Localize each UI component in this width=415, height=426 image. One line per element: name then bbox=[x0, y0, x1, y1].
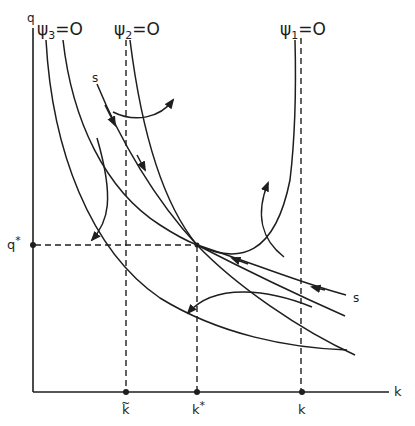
psi2-curve bbox=[130, 40, 355, 355]
k-star-label: k* bbox=[192, 399, 206, 417]
q-star-label: q* bbox=[7, 234, 21, 252]
k-star-dot bbox=[194, 389, 200, 395]
psi2-label: ψ2=O bbox=[114, 19, 160, 42]
saddle-path-upper-arrow bbox=[105, 105, 115, 125]
k-axis-label: k bbox=[394, 384, 402, 399]
saddle-path-upper bbox=[97, 84, 197, 245]
equilibrium-point bbox=[195, 243, 200, 248]
trajectory-right bbox=[261, 183, 284, 257]
saddle-path: s s bbox=[92, 71, 359, 305]
saddle-label-lower: s bbox=[353, 291, 359, 305]
k-bar-dot bbox=[299, 389, 305, 395]
trajectory-bottom bbox=[188, 292, 312, 313]
saddle-path-upper-arrow-2 bbox=[137, 155, 145, 170]
locus-curve-4 bbox=[63, 40, 345, 316]
psi3-label: ψ3=O bbox=[37, 19, 83, 42]
tick-markers bbox=[30, 242, 305, 395]
trajectories bbox=[92, 100, 312, 313]
k-tilde-dot bbox=[123, 389, 129, 395]
q-axis-label: q bbox=[27, 11, 35, 25]
isocline-labels: ψ3=O ψ2=O ψ1=O bbox=[37, 19, 326, 42]
tick-labels: q* ~ k k* k bbox=[7, 234, 306, 417]
phase-diagram: q k ψ3=O ψ2=O ψ1=O s s bbox=[0, 0, 415, 426]
psi1-label: ψ1=O bbox=[280, 19, 326, 42]
axes: q k bbox=[27, 11, 402, 399]
psi1-curve bbox=[197, 40, 295, 254]
saddle-path-lower bbox=[197, 245, 346, 295]
k-bar-label: k bbox=[298, 402, 306, 417]
isocline-curves bbox=[46, 40, 355, 355]
q-star-dot bbox=[30, 242, 36, 248]
saddle-label-upper: s bbox=[92, 71, 98, 85]
k-tilde-label: k bbox=[122, 402, 130, 417]
